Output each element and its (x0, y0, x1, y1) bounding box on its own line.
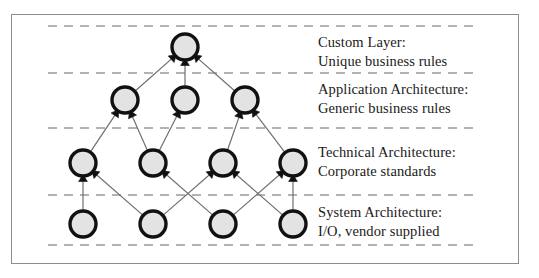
node-technical-4 (280, 150, 306, 176)
node-custom-1 (172, 34, 198, 60)
layer-subtitle-technical: Corporate standards (318, 162, 456, 181)
node-technical-3 (210, 150, 236, 176)
node-circle-custom-1 (172, 34, 198, 60)
node-system-3 (210, 211, 236, 237)
node-application-1 (112, 87, 138, 113)
edge-system-4-to-technical-3 (232, 171, 283, 215)
node-circle-system-3 (210, 211, 236, 237)
node-application-2 (172, 87, 198, 113)
node-technical-1 (70, 150, 96, 176)
node-system-4 (280, 211, 306, 237)
layer-title-system: System Architecture: (318, 203, 442, 222)
node-system-2 (140, 211, 166, 237)
node-circle-application-3 (232, 87, 258, 113)
edge-technical-4-to-application-3 (252, 109, 284, 151)
layer-label-system: System Architecture: I/O, vendor supplie… (318, 203, 442, 241)
node-technical-2 (140, 150, 166, 176)
node-circle-system-4 (280, 211, 306, 237)
node-circle-technical-4 (280, 150, 306, 176)
node-circle-technical-1 (70, 150, 96, 176)
node-circle-technical-2 (140, 150, 166, 176)
diagram-canvas (0, 0, 539, 278)
layer-title-technical: Technical Architecture: (318, 143, 456, 162)
architecture-layers-figure: Custom Layer: Unique business rules Appl… (0, 0, 539, 278)
layer-title-custom: Custom Layer: (318, 33, 447, 52)
edge-system-3-to-technical-2 (162, 171, 213, 215)
layer-subtitle-system: I/O, vendor supplied (318, 222, 442, 241)
node-system-1 (70, 211, 96, 237)
dependency-edges (83, 55, 293, 215)
layer-title-application: Application Architecture: (318, 80, 468, 99)
layer-subtitle-custom: Unique business rules (318, 52, 447, 71)
node-circle-application-1 (112, 87, 138, 113)
edge-application-1-to-custom-1 (136, 55, 177, 91)
node-circle-system-2 (140, 211, 166, 237)
edge-system-2-to-technical-1 (92, 171, 143, 215)
layer-label-application: Application Architecture: Generic busine… (318, 80, 468, 118)
edge-system-2-to-technical-3 (164, 171, 215, 215)
edge-system-3-to-technical-4 (234, 171, 285, 215)
node-circle-application-2 (172, 87, 198, 113)
layer-label-technical: Technical Architecture: Corporate standa… (318, 143, 456, 181)
edge-technical-1-to-application-1 (91, 110, 119, 152)
layer-subtitle-application: Generic business rules (318, 99, 468, 118)
node-application-3 (232, 87, 258, 113)
node-circle-technical-3 (210, 150, 236, 176)
node-circle-system-1 (70, 211, 96, 237)
layer-label-custom: Custom Layer: Unique business rules (318, 33, 447, 71)
